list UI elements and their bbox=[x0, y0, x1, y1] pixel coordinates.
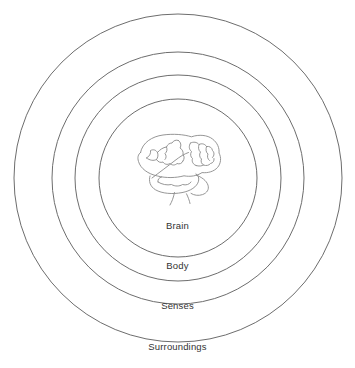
brain-illustration-icon bbox=[138, 134, 221, 205]
ring-label-senses: Senses bbox=[0, 300, 355, 312]
diagram-canvas bbox=[0, 0, 355, 368]
ring-circle-surroundings bbox=[14, 14, 342, 342]
ring-label-surroundings: Surroundings bbox=[0, 341, 355, 353]
ring-circle-brain bbox=[99, 99, 257, 257]
ring-circle-body bbox=[75, 75, 281, 281]
ring-label-body: Body bbox=[0, 260, 355, 272]
concentric-diagram: Brain Body Senses Surroundings bbox=[0, 0, 355, 368]
ring-label-brain: Brain bbox=[0, 220, 355, 232]
